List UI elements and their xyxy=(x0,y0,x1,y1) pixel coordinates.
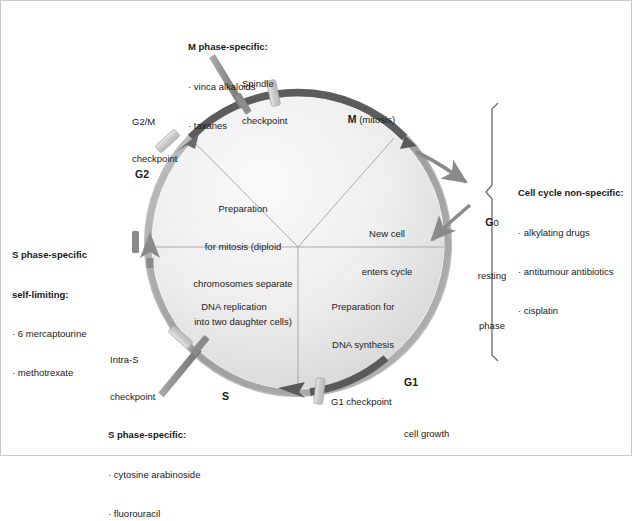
drug-box-non-specific-item-0: · alkylating drugs xyxy=(518,226,624,239)
checkpoint-label-intra-s-line1: Intra-S xyxy=(110,354,155,366)
drug-box-s-phase-header: S phase-specific: xyxy=(108,428,200,441)
quadrant-text-s-line-0: DNA replication xyxy=(178,301,290,314)
checkpoint-label-g2m-line2: checkpoint xyxy=(132,153,177,165)
checkpoint-label-g1: G1 checkpoint xyxy=(331,396,392,408)
phase-label-g0-letter-row: G0 xyxy=(470,211,514,231)
quadrant-text-g1-line-1: DNA synthesis xyxy=(310,339,416,352)
phase-label-g0: G0 resting phase xyxy=(470,172,514,371)
checkpoint-label-spindle-line2: checkpoint xyxy=(242,115,287,127)
quadrant-text-g1-line-0: Preparation for xyxy=(310,301,416,314)
quadrant-text-g2-line-1: for mitosis (diploid xyxy=(168,241,318,254)
checkpoint-label-spindle: Spindle checkpoint xyxy=(242,54,287,151)
drug-box-non-specific-item-2: · cisplatin xyxy=(518,304,624,317)
drug-box-s-self-limiting-header-1: S phase-specific xyxy=(12,248,87,261)
drug-box-non-specific: Cell cycle non-specific: · alkylating dr… xyxy=(518,160,624,344)
inhibitor-stick-s xyxy=(161,349,199,395)
drug-box-s-self-limiting-header-2: self-limiting: xyxy=(12,288,87,301)
phase-label-m: M (mitosis) xyxy=(330,88,395,147)
phase-label-g2: G2 xyxy=(135,168,149,181)
drug-box-s-self-limiting-item-1: · methotrexate xyxy=(12,366,87,379)
phase-label-m-sub: (mitosis) xyxy=(357,114,396,125)
drug-box-non-specific-header: Cell cycle non-specific: xyxy=(518,186,624,199)
phase-label-g0-digit: 0 xyxy=(493,217,498,228)
phase-label-g0-sub2: phase xyxy=(470,320,514,332)
phase-label-g1-sub: cell growth xyxy=(404,428,449,440)
phase-label-g0-sub1: resting xyxy=(470,270,514,282)
checkpoint-label-spindle-line1: Spindle xyxy=(242,78,287,90)
drug-box-s-phase: S phase-specific: · cytosine arabinoside… xyxy=(108,402,200,521)
quadrant-text-s: DNA replication xyxy=(178,276,290,339)
quadrant-text-g1: Preparation for DNA synthesis xyxy=(310,276,416,376)
drug-box-s-phase-item-1: · fluorouracil xyxy=(108,507,200,520)
drug-box-s-self-limiting-item-0: · 6 mercaptourine xyxy=(12,327,87,340)
drug-box-s-phase-item-0: · cytosine arabinoside xyxy=(108,468,200,481)
inhibitor-crossbar-s-self xyxy=(132,231,139,253)
checkpoint-label-g2m-line1: G2/M xyxy=(132,116,177,128)
phase-label-m-letter: M xyxy=(348,113,357,125)
phase-label-s: S xyxy=(222,390,229,403)
quadrant-text-g2-line-0: Preparation xyxy=(168,203,318,216)
drug-box-s-self-limiting: S phase-specific self-limiting: · 6 merc… xyxy=(12,222,87,406)
drug-box-non-specific-item-1: · antitumour antibiotics xyxy=(518,265,624,278)
drug-box-m-phase-header: M phase-specific: xyxy=(188,40,268,53)
phase-label-g1-letter: G1 xyxy=(404,376,449,389)
quadrant-text-m-line-0: New cell xyxy=(334,228,440,241)
